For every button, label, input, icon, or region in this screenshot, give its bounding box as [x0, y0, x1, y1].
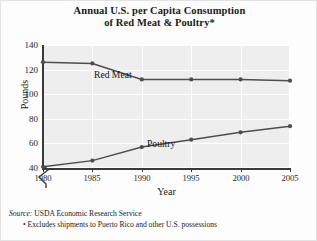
x-axis-label: Year: [43, 186, 290, 197]
x-tick-label-1990: 1990: [122, 173, 162, 183]
x-tick-label-1995: 1995: [171, 173, 211, 183]
x-tick-label-1985: 1985: [72, 173, 112, 183]
chart-title: Annual U.S. per Capita Consumption of Re…: [1, 5, 317, 28]
x-tick-2005: [290, 168, 291, 172]
x-tick-1995: [191, 168, 192, 172]
x-tick-1985: [92, 168, 93, 172]
chart-title-line-1: Annual U.S. per Capita Consumption: [1, 5, 317, 17]
footnotes: Source: USDA Economic Research Service •…: [9, 209, 314, 230]
x-tick-label-2005: 2005: [270, 173, 310, 183]
plot-area: [43, 45, 290, 168]
gridline-y-80: [43, 119, 290, 120]
gridline-x-2000: [241, 45, 242, 168]
y-axis-label: Pounds: [19, 60, 30, 130]
x-tick-label-2000: 2000: [221, 173, 261, 183]
x-axis-line: [42, 168, 291, 170]
source-line: Source: USDA Economic Research Service: [9, 209, 314, 220]
gridline-y-120: [43, 70, 290, 71]
y-tick-label-140: 140: [12, 40, 38, 50]
gridline-x-1985: [92, 45, 93, 168]
footnote-note: • Excludes shipments to Puerto Rico and …: [9, 220, 314, 231]
source-text: USDA Economic Research Service: [32, 209, 141, 218]
x-tick-2000: [241, 168, 242, 172]
x-tick-1990: [142, 168, 143, 172]
gridline-x-1990: [142, 45, 143, 168]
y-tick-label-60: 60: [12, 138, 38, 148]
chart-figure: Annual U.S. per Capita Consumption of Re…: [0, 0, 317, 241]
gridline-y-140: [43, 45, 290, 46]
gridline-x-1995: [191, 45, 192, 168]
gridline-y-100: [43, 94, 290, 95]
source-word: Source:: [9, 209, 32, 218]
y-axis-line: [42, 45, 44, 169]
gridline-x-2005: [289, 45, 290, 168]
series-label-poultry: Poultry: [147, 138, 175, 149]
chart-title-line-2: of Red Meat & Poultry*: [1, 17, 317, 29]
series-label-red-meat: Red Meat: [94, 69, 132, 80]
axis-break-icon: [35, 165, 53, 189]
